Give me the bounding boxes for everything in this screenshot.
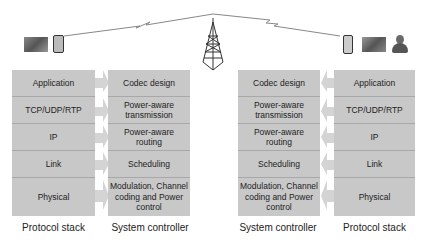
controller-power-routing: Power-aware routing [108,124,190,151]
right-arrows [320,70,335,216]
controller-scheduling: Scheduling [108,151,190,178]
layer-transport: TCP/UDP/RTP [334,97,415,124]
right-caption-stack: Protocol stack [328,222,421,233]
controller-modulation: Modulation, Channel coding and Power con… [238,178,320,216]
controller-codec: Codec design [238,70,320,97]
layer-transport: TCP/UDP/RTP [12,97,95,124]
layer-physical: Physical [334,178,415,216]
controller-power-tx: Power-aware transmission [108,97,190,124]
layer-link: Link [334,151,415,178]
cell-phone-icon [53,35,64,53]
radio-tower-icon [203,18,223,70]
controller-codec: Codec design [108,70,190,97]
video-thumbnail-icon [362,37,386,52]
layer-application: Application [12,70,95,97]
layer-ip: IP [334,124,415,151]
left-caption-stack: Protocol stack [6,222,101,233]
user-icon [392,35,408,53]
layer-ip: IP [12,124,95,151]
layer-link: Link [12,151,95,178]
controller-power-routing: Power-aware routing [238,124,320,151]
pda-icon [343,35,353,54]
layer-physical: Physical [12,178,95,216]
controller-power-tx: Power-aware transmission [238,97,320,124]
left-caption-controller: System controller [104,222,196,233]
layer-application: Application [334,70,415,97]
controller-scheduling: Scheduling [238,151,320,178]
video-thumbnail-icon [24,37,48,52]
right-caption-controller: System controller [230,222,326,233]
controller-modulation: Modulation, Channel coding and Power con… [108,178,190,216]
